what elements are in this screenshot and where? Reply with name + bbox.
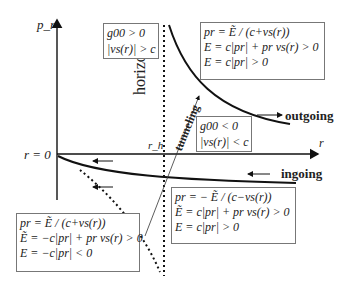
outgoing-mode-box: pr = Ẽ / (c+vs(r)) E = c|pr| + pr vs(r) … xyxy=(200,22,325,80)
outside-region-box: g00 > 0 |vs(r)| > c xyxy=(103,23,159,59)
inside-region-box: g00 < 0 |vs(r)| < c xyxy=(196,116,252,152)
ingoing-label: ingoing xyxy=(281,167,322,180)
negative-mode-box: pr = Ẽ / (c+vs(r)) Ẽ = −c|pr| + pr vs(r)… xyxy=(16,213,140,272)
horizon-radius-label: r_h xyxy=(148,140,163,151)
r-axis-label: r xyxy=(319,137,324,149)
ingoing-curve xyxy=(58,156,296,183)
pr-axis-label: p_r xyxy=(37,18,55,31)
ingoing-mode-box: pr = − Ẽ / (c−vs(r)) Ẽ = c|pr| + pr vs(r… xyxy=(171,187,296,244)
origin-label: r = 0 xyxy=(24,148,51,161)
outgoing-label: outgoing xyxy=(285,109,333,122)
